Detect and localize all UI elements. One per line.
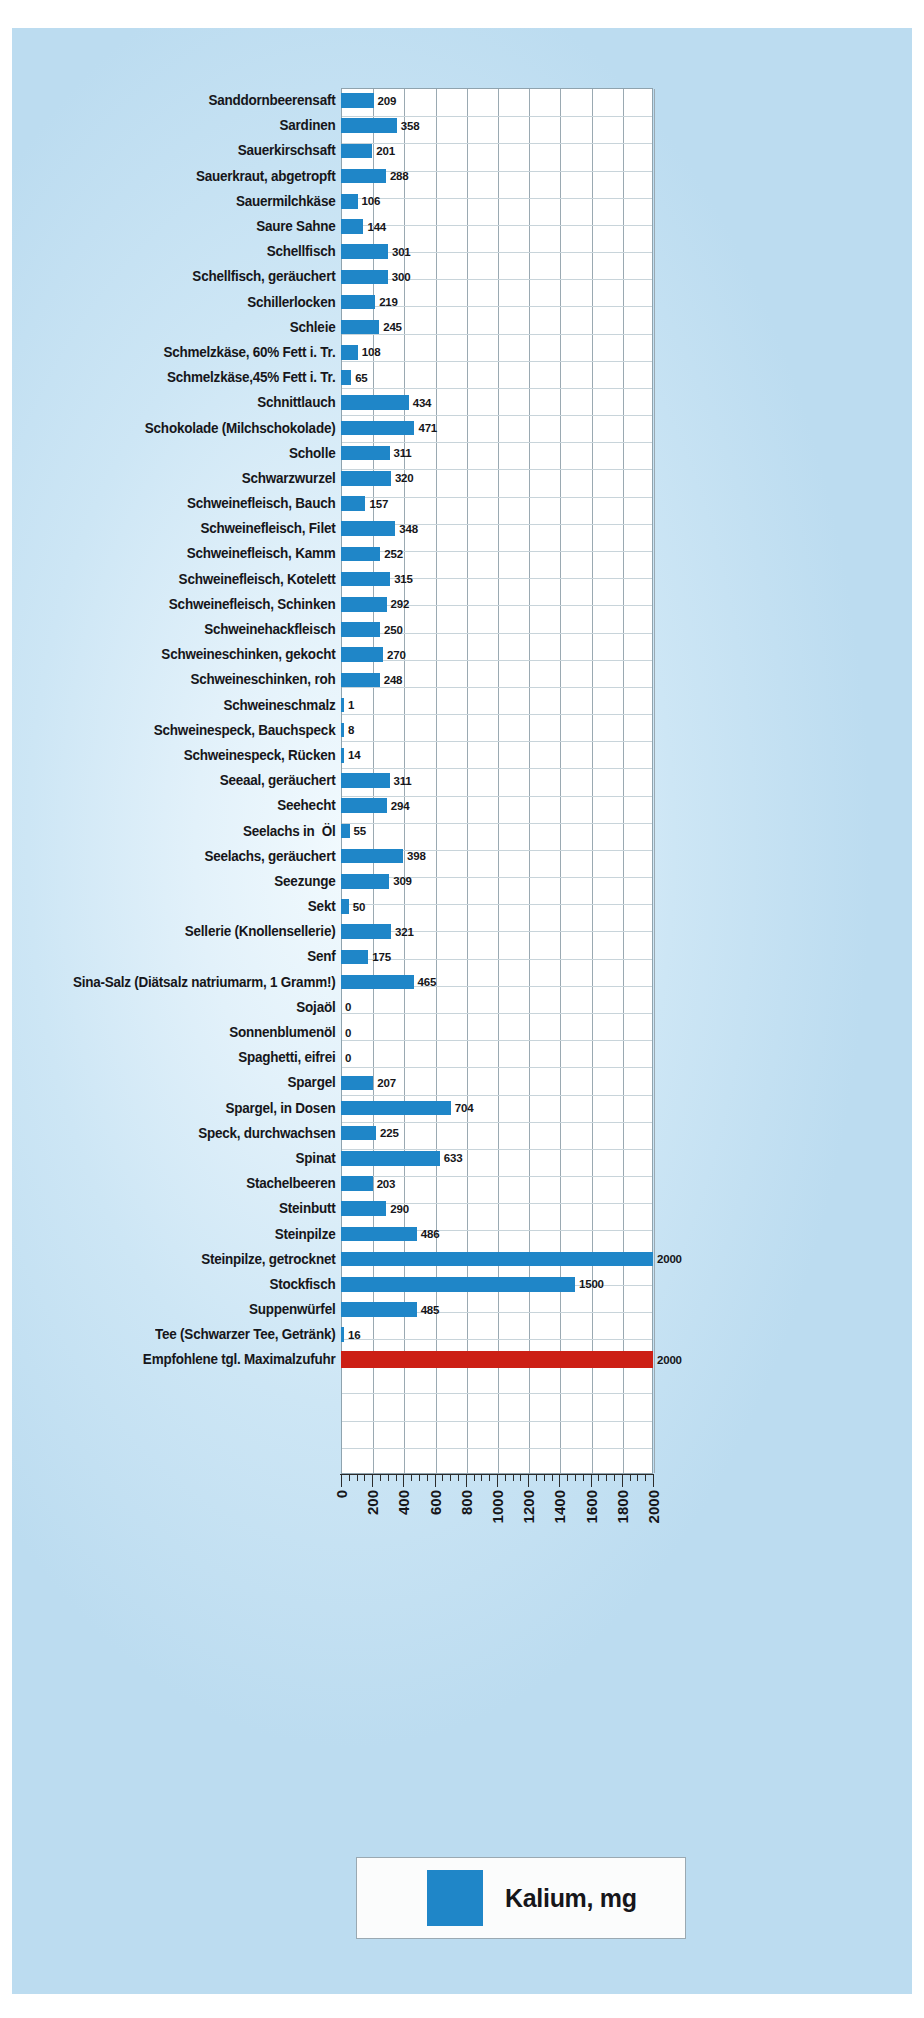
value-bar (341, 1277, 575, 1292)
bar-value-label: 465 (414, 976, 437, 988)
bar-cell: 16 (341, 1322, 653, 1347)
axis-tick-minor (598, 1474, 599, 1481)
bar-value-label: 0 (341, 1001, 351, 1013)
bar-cell: 704 (341, 1096, 653, 1121)
bar-row: Schellfisch, geräuchert300 (0, 264, 653, 289)
bar-value-label: 292 (387, 598, 410, 610)
bar-cell: 144 (341, 214, 653, 239)
bar-cell: 157 (341, 491, 653, 516)
value-bar (341, 521, 395, 536)
value-bar (341, 874, 389, 889)
bar-category-label: Schillerlocken (24, 295, 341, 310)
axis-tick-label: 400 (395, 1490, 412, 1515)
bar-value-label: 55 (350, 825, 366, 837)
bar-category-label: Empfohlene tgl. Maximalzufuhr (24, 1352, 341, 1367)
axis-tick-minor (520, 1474, 521, 1481)
bar-category-label: Seeaal, geräuchert (24, 773, 341, 788)
axis-tick-minor (388, 1474, 389, 1481)
axis-tick-minor (544, 1474, 545, 1481)
bar-category-label: Seehecht (24, 798, 341, 813)
bar-category-label: Saure Sahne (24, 219, 341, 234)
bar-row: Schnittlauch434 (0, 390, 653, 415)
bar-row: Spargel, in Dosen704 (0, 1096, 653, 1121)
bar-row: Saure Sahne144 (0, 214, 653, 239)
bar-value-label: 270 (383, 649, 406, 661)
bar-cell: 486 (341, 1221, 653, 1246)
bar-cell: 301 (341, 239, 653, 264)
bar-row: Spinat633 (0, 1146, 653, 1171)
bar-row: Schmelzkäse,45% Fett i. Tr.65 (0, 365, 653, 390)
axis-tick-minor (396, 1474, 397, 1481)
bar-category-label: Steinbutt (24, 1201, 341, 1216)
gridline-horizontal (342, 1421, 652, 1422)
bar-value-label: 157 (365, 498, 388, 510)
bar-category-label: Sauerkirschsaft (24, 143, 341, 158)
bar-row: Schweinefleisch, Filet348 (0, 516, 653, 541)
value-bar (341, 1101, 451, 1116)
bar-category-label: Schnittlauch (24, 395, 341, 410)
bar-cell: 8 (341, 718, 653, 743)
bar-cell: 311 (341, 768, 653, 793)
bar-category-label: Schweinespeck, Bauchspeck (24, 723, 341, 738)
bar-category-label: Schweineschinken, gekocht (24, 647, 341, 662)
bar-value-label: 300 (388, 271, 411, 283)
chart-legend: Kalium, mg (356, 1857, 686, 1939)
bar-value-label: 65 (351, 372, 367, 384)
bar-row: Schwarzwurzel320 (0, 466, 653, 491)
value-bar (341, 798, 387, 813)
value-bar (341, 1151, 440, 1166)
bar-cell: 2000 (341, 1347, 653, 1372)
bar-value-label: 16 (344, 1329, 360, 1341)
value-bar (341, 446, 390, 461)
bar-cell: 207 (341, 1070, 653, 1095)
axis-tick-minor (552, 1474, 553, 1481)
value-bar (341, 1176, 373, 1191)
bar-value-label: 201 (372, 145, 395, 157)
bar-row: Schweinefleisch, Bauch157 (0, 491, 653, 516)
bar-category-label: Steinpilze, getrocknet (24, 1252, 341, 1267)
bar-category-label: Sojaöl (24, 1000, 341, 1015)
value-bar (341, 370, 351, 385)
bar-cell: 250 (341, 617, 653, 642)
potassium-bar-chart: Sanddornbeerensaft209Sardinen358Sauerkir… (0, 0, 924, 1770)
bar-value-label: 1500 (575, 1278, 604, 1290)
value-bar (341, 270, 388, 285)
bar-value-label: 309 (389, 875, 412, 887)
bar-row: Schillerlocken219 (0, 290, 653, 315)
bar-row: Seelachs in Öl55 (0, 818, 653, 843)
axis-tick-minor (489, 1474, 490, 1481)
bar-row: Schweineschmalz1 (0, 693, 653, 718)
bar-category-label: Schweinespeck, Rücken (24, 748, 341, 763)
bar-row: Tee (Schwarzer Tee, Getränk)16 (0, 1322, 653, 1347)
bar-value-label: 633 (440, 1152, 463, 1164)
axis-tick-minor (458, 1474, 459, 1481)
bar-cell: 311 (341, 441, 653, 466)
bar-cell: 288 (341, 164, 653, 189)
value-bar (341, 345, 358, 360)
bar-category-label: Schleie (24, 320, 341, 335)
bar-category-label: Schweinefleisch, Bauch (24, 496, 341, 511)
bar-row: Sellerie (Knollensellerie)321 (0, 919, 653, 944)
bar-cell: 2000 (341, 1247, 653, 1272)
bar-cell: 294 (341, 793, 653, 818)
bar-value-label: 175 (368, 951, 391, 963)
value-bar (341, 924, 391, 939)
bar-row: Empfohlene tgl. Maximalzufuhr2000 (0, 1347, 653, 1372)
bar-rows: Sanddornbeerensaft209Sardinen358Sauerkir… (0, 88, 653, 1373)
value-bar (341, 118, 397, 133)
axis-tick-minor (357, 1474, 358, 1481)
bar-row: Schmelzkäse, 60% Fett i. Tr.108 (0, 340, 653, 365)
bar-value-label: 248 (380, 674, 403, 686)
bar-category-label: Speck, durchwachsen (24, 1126, 341, 1141)
axis-tick-label: 0 (333, 1490, 350, 1498)
bar-cell: 0 (341, 995, 653, 1020)
axis-tick-minor (536, 1474, 537, 1481)
bar-cell: 358 (341, 113, 653, 138)
bar-cell: 201 (341, 138, 653, 163)
value-bar (341, 395, 409, 410)
axis-tick-label: 2000 (645, 1490, 662, 1523)
value-bar (341, 572, 390, 587)
bar-row: Schweineschinken, roh248 (0, 667, 653, 692)
bar-value-label: 320 (391, 472, 414, 484)
bar-row: Seehecht294 (0, 793, 653, 818)
